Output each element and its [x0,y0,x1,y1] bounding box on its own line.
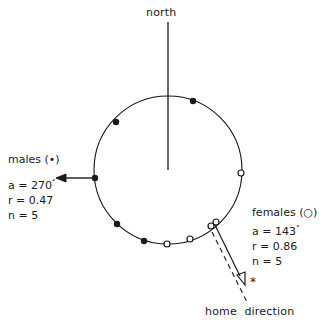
females-stats: a = 143° r = 0.86 n = 5 [252,224,317,269]
males-mean-arrow [56,174,94,182]
males-mean-angle: a = 270° [8,178,60,193]
data-point-male [190,98,196,104]
males-group-legend: males (•) a = 270° r = 0.47 n = 5 [8,153,60,223]
males-title: males (•) [8,153,60,166]
males-data-points [92,98,196,244]
females-mean-angle-value: a = 143 [252,225,296,238]
females-data-points [164,170,244,247]
data-point-male [113,119,119,125]
females-n-value: n = 5 [252,254,317,269]
data-point-male [114,221,120,227]
males-r-value: r = 0.47 [8,193,60,208]
data-point-male [92,175,98,181]
males-mean-angle-value: a = 270 [8,179,52,192]
males-stats: a = 270° r = 0.47 n = 5 [8,178,60,223]
females-group-legend: females (○) a = 143° r = 0.86 n = 5 [252,206,317,269]
data-point-female [238,170,244,176]
females-r-value: r = 0.86 [252,239,317,254]
asterisk-marker: * [250,275,256,289]
home-direction-label: home direction [205,305,294,318]
females-mean-arrow [214,223,245,285]
home-direction-dashed-line [212,232,247,302]
data-point-male [141,238,147,244]
data-point-female [208,223,214,229]
north-label: north [146,6,177,19]
females-title: females (○) [252,206,317,219]
degree-symbol: ° [52,178,56,186]
males-n-value: n = 5 [8,208,60,223]
circular-statistics-figure: * north males (•) a = 270° r = 0.47 n = … [0,0,328,325]
data-point-female [164,241,170,247]
data-point-female [187,236,193,242]
females-mean-angle: a = 143° [252,224,317,239]
degree-symbol: ° [296,224,300,232]
